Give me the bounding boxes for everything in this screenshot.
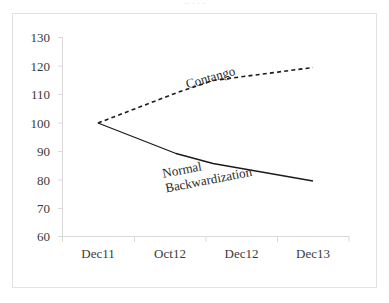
y-tick-label-60: 60 [16, 230, 50, 243]
cropped-header-text: ·· · · · [0, 0, 389, 11]
x-tick-label-dec11: Dec11 [62, 247, 134, 260]
y-tick-label-110: 110 [16, 88, 50, 101]
x-tick-label-oct12: Oct12 [134, 247, 206, 260]
y-tick-label-120: 120 [16, 60, 50, 73]
x-tick-label-dec12: Dec12 [206, 247, 278, 260]
y-tick-label-130: 130 [16, 31, 50, 44]
y-tick-label-70: 70 [16, 202, 50, 215]
x-tick-label-dec13: Dec13 [277, 247, 349, 260]
y-tick-label-90: 90 [16, 145, 50, 158]
y-tick-label-80: 80 [16, 174, 50, 187]
chart-screenshot: ·· · · · [0, 0, 389, 303]
chart-frame: 130 120 110 100 90 80 70 60 Dec11 Oct12 … [12, 13, 377, 288]
y-tick-label-100: 100 [16, 117, 50, 130]
